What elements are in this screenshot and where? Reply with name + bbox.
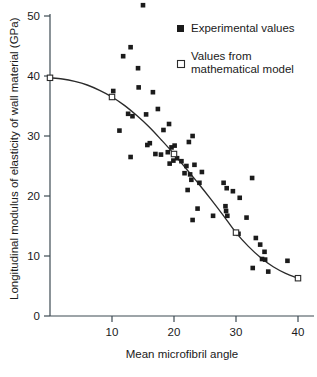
x-tick-label: 30 [230,326,243,338]
data-point-experimental [192,163,197,168]
data-point-experimental [244,215,249,220]
data-point-experimental [117,128,122,133]
data-point-experimental [111,89,116,94]
data-point-experimental [141,3,146,8]
data-point-experimental [145,143,150,148]
data-point-experimental [185,188,190,193]
data-point-experimental [190,134,195,139]
data-point-experimental [189,178,194,183]
y-tick-label: 20 [27,190,40,202]
legend-label-model-line1: Values from [191,50,252,62]
data-point-experimental [197,181,202,186]
y-tick-label: 0 [34,310,40,322]
chart-figure: 01020304050 10203040 Longitudinal modulu… [0,0,317,377]
x-tick-label: 20 [168,326,181,338]
data-point-experimental [195,206,200,211]
y-tick-label: 40 [27,70,40,82]
data-point-experimental [225,214,230,219]
data-point-experimental [223,204,228,209]
data-point-experimental [172,143,177,148]
data-point-experimental [136,85,141,90]
data-point-experimental [262,250,267,255]
data-point-experimental [187,140,192,145]
data-point-experimental [126,112,131,117]
data-point-experimental [144,112,149,117]
y-tick-label: 50 [27,10,40,22]
data-point-experimental [166,150,171,155]
x-axis-title: Mean microfibril angle [126,348,239,360]
data-point-experimental [254,236,259,241]
data-point-experimental [211,214,216,219]
data-point-experimental [121,54,126,59]
legend-marker-model [178,61,185,68]
y-tick-label: 10 [27,250,40,262]
data-point-model [47,75,52,80]
data-point-experimental [250,176,255,181]
data-point-experimental [224,186,229,191]
data-point-experimental [258,242,263,247]
data-point-experimental [285,259,290,264]
data-point-experimental [161,128,166,133]
data-point-experimental [224,209,229,214]
data-point-experimental [231,189,236,194]
experimental-data-points [111,3,290,274]
legend-label-experimental: Experimental values [191,22,295,34]
y-axis-title: Longitudinal modulus of elasticity of wa… [8,17,20,300]
data-point-experimental [136,66,141,71]
y-axis-ticks: 01020304050 [27,10,50,322]
data-point-experimental [250,266,255,271]
data-point-experimental [156,107,161,112]
chart-legend: Experimental values Values from mathemat… [177,22,295,75]
data-point-model [295,276,300,281]
data-point-model [109,94,114,99]
data-point-experimental [263,257,268,262]
legend-marker-experimental [177,25,184,32]
data-point-model [171,151,176,156]
x-tick-label: 40 [292,326,305,338]
x-tick-label: 10 [106,326,119,338]
data-point-experimental [167,122,172,127]
data-point-experimental [151,90,156,95]
model-fit-curve [50,78,298,278]
data-point-experimental [130,114,135,119]
data-point-model [233,230,238,235]
data-point-experimental [153,152,158,157]
data-point-experimental [128,45,133,50]
data-point-experimental [184,164,189,169]
data-point-experimental [221,181,226,186]
legend-label-model-line2: mathematical model [191,63,294,75]
data-point-experimental [188,172,193,177]
data-point-experimental [159,152,164,157]
data-point-experimental [190,218,195,223]
data-point-experimental [237,196,242,201]
x-axis-ticks: 10203040 [106,316,305,338]
data-point-experimental [182,171,187,176]
data-point-experimental [179,159,184,164]
data-point-experimental [128,155,133,160]
y-tick-label: 30 [27,130,40,142]
scatter-plot: 01020304050 10203040 Longitudinal modulu… [0,0,317,377]
data-point-experimental [266,269,271,274]
data-point-experimental [200,170,205,175]
